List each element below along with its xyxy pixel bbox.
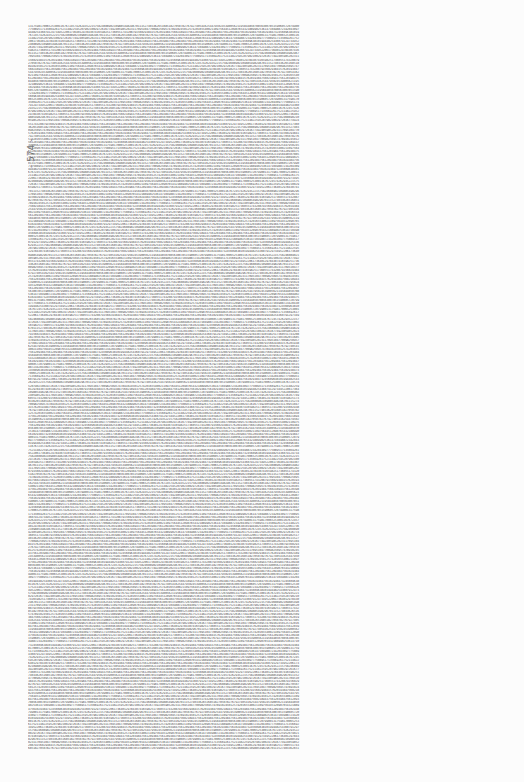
digit-line: 6851827050782767927405416254479502453900… [28,747,500,750]
digit-table: 1317598170065253001167672457426293522157… [28,25,500,750]
document-page: - 574 - 13175981700652530011676724574262… [0,0,524,782]
